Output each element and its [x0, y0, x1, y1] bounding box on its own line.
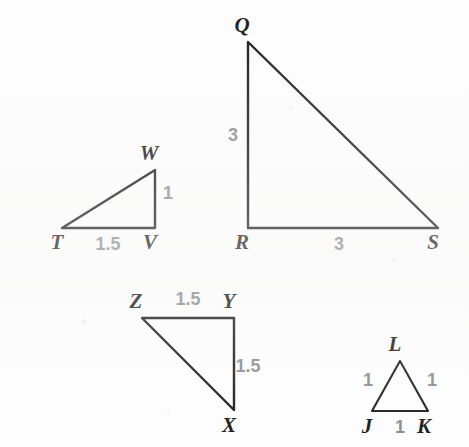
triangle-tvw: T V W 1.5 1 — [51, 141, 173, 254]
vertex-label-w: W — [140, 141, 160, 165]
triangle-xyz-outline — [142, 318, 234, 410]
vertex-label-j: J — [361, 414, 374, 438]
vertex-label-x: X — [221, 413, 237, 437]
measure-label-vw: 1 — [163, 183, 173, 203]
measure-label-tv: 1.5 — [95, 234, 120, 254]
vertex-label-r: R — [234, 230, 249, 254]
triangle-xyz: Z Y X 1.5 1.5 — [129, 289, 261, 437]
measure-label-rs: 3 — [334, 234, 344, 254]
measure-label-zy: 1.5 — [175, 289, 200, 309]
vertex-label-z: Z — [129, 289, 143, 313]
geometry-figure: T V W 1.5 1 Q R S 3 3 Z Y X 1.5 1.5 L — [0, 0, 469, 447]
measure-label-lk: 1 — [427, 370, 437, 390]
vertex-label-l: L — [388, 332, 402, 356]
measure-label-jl: 1 — [363, 370, 373, 390]
measure-label-yx: 1.5 — [235, 356, 260, 376]
measure-label-qr: 3 — [228, 125, 238, 145]
vertex-label-y: Y — [223, 289, 238, 313]
triangle-qrs: Q R S 3 3 — [228, 13, 439, 254]
measure-label-jk: 1 — [395, 417, 405, 437]
vertex-label-v: V — [143, 230, 159, 254]
geometry-canvas: T V W 1.5 1 Q R S 3 3 Z Y X 1.5 1.5 L — [0, 0, 469, 447]
vertex-label-k: K — [416, 414, 433, 438]
vertex-label-s: S — [427, 230, 439, 254]
vertex-label-t: T — [51, 230, 65, 254]
triangle-jkl: L J K 1 1 1 — [361, 332, 437, 438]
triangle-qrs-outline — [248, 42, 438, 228]
triangle-jkl-outline — [372, 361, 428, 411]
vertex-label-q: Q — [234, 13, 249, 37]
triangle-tvw-outline — [62, 170, 155, 228]
